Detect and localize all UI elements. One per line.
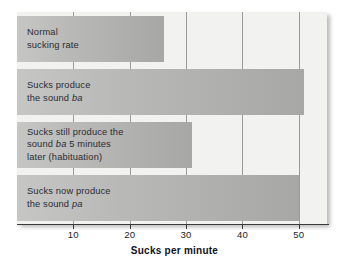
bar-label-emphasis: pa — [72, 199, 83, 209]
bar-label-text: Sucks still produce the — [27, 127, 123, 137]
bar-label-line: later (habituation) — [27, 151, 123, 163]
x-tick-label-20: 20 — [115, 229, 145, 240]
bar-label-text: later (habituation) — [27, 152, 102, 162]
bar-label-line: Sucks produce — [27, 79, 90, 91]
bar-category-label: Sucks now producethe sound pa — [27, 175, 111, 221]
bar-category-label: Sucks still produce thesound ba 5 minute… — [27, 122, 123, 168]
bar-category-label: Sucks producethe sound ba — [27, 69, 90, 115]
bar-label-line: Normal — [27, 26, 79, 38]
x-tick-label-50: 50 — [284, 229, 314, 240]
bar-row: Sucks still produce thesound ba 5 minute… — [17, 122, 327, 168]
bar-row: Sucks producethe sound ba — [17, 69, 327, 115]
x-tick-label-30: 30 — [171, 229, 201, 240]
bar-row: Normalsucking rate — [17, 16, 327, 62]
bar-label-line: Sucks now produce — [27, 185, 111, 197]
bar-label-line: sucking rate — [27, 39, 79, 51]
bar-chart-figure: Normalsucking rateSucks producethe sound… — [0, 0, 349, 268]
plot-panel: Normalsucking rateSucks producethe sound… — [17, 12, 327, 224]
bar-row: Sucks now producethe sound pa — [17, 175, 327, 221]
bar-label-text: Sucks now produce — [27, 186, 111, 196]
bar-label-line: the sound ba — [27, 92, 90, 104]
bar-category-label: Normalsucking rate — [27, 16, 79, 62]
bar-label-text: sound — [27, 139, 56, 149]
x-tick-label-40: 40 — [227, 229, 257, 240]
bar-label-line: the sound pa — [27, 198, 111, 210]
bar-label-line: sound ba 5 minutes — [27, 138, 123, 150]
bar-label-text: Normal — [27, 27, 58, 37]
x-axis-line — [17, 224, 329, 225]
bar-label-text: the sound — [27, 93, 72, 103]
bar-label-text: 5 minutes — [66, 139, 110, 149]
x-axis-title: Sucks per minute — [0, 245, 349, 256]
bar-label-emphasis: ba — [72, 93, 83, 103]
bar-label-text: the sound — [27, 199, 72, 209]
bar-label-text: sucking rate — [27, 40, 79, 50]
bar-label-line: Sucks still produce the — [27, 126, 123, 138]
x-tick-label-10: 10 — [58, 229, 88, 240]
bar-label-emphasis: ba — [56, 139, 67, 149]
bar-label-text: Sucks produce — [27, 80, 90, 90]
